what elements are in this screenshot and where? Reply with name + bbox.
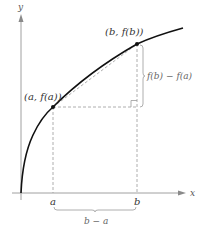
x-axis-label: x xyxy=(190,188,195,198)
tick-b-label: b xyxy=(134,196,140,207)
vertical-brace-label: f(b) − f(a) xyxy=(146,71,193,81)
secant-line xyxy=(53,44,137,107)
point-b-label: (b, f(b)) xyxy=(105,26,144,37)
right-angle-marker xyxy=(131,101,137,108)
secant-diagram: y x (a, f(a)) (b, f(b)) f(b) − f(a) a b xyxy=(0,0,203,236)
y-axis-arrow-icon xyxy=(19,14,24,22)
tick-a-label: a xyxy=(50,196,56,207)
point-b xyxy=(135,42,139,46)
y-axis-label: y xyxy=(17,2,24,12)
point-a-label: (a, f(a)) xyxy=(24,91,62,102)
horizontal-brace-label: b − a xyxy=(84,216,108,226)
horizontal-brace xyxy=(54,207,136,212)
point-a xyxy=(51,105,55,109)
guide-lines xyxy=(53,44,137,193)
x-axis xyxy=(12,191,186,196)
function-curve xyxy=(21,28,183,193)
vertical-brace xyxy=(140,45,145,107)
x-axis-arrow-icon xyxy=(178,191,186,196)
